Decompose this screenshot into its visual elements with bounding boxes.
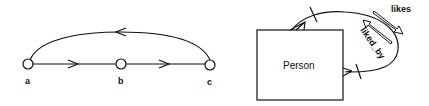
crowfoot-right-icon	[343, 68, 352, 76]
node-b	[116, 59, 126, 69]
diagram-canvas: a b c likes liked_by Person	[0, 0, 429, 106]
node-label-b: b	[118, 76, 124, 86]
node-a	[23, 59, 33, 69]
node-c	[205, 60, 215, 70]
left-graph	[23, 28, 215, 70]
arc-edge-c-to-a	[30, 32, 210, 60]
entity-label-person: Person	[283, 60, 315, 71]
relationship-label-liked-by: liked_by	[358, 25, 387, 60]
node-label-c: c	[207, 77, 212, 87]
relationship-label-likes: likes	[391, 4, 411, 14]
node-label-a: a	[25, 76, 31, 86]
